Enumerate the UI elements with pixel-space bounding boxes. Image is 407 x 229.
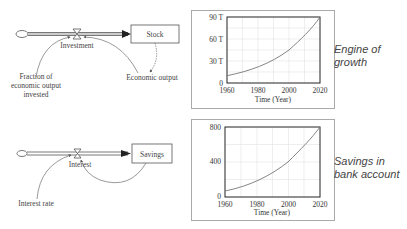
flow-label: Investment	[60, 41, 94, 50]
flow-label: Interest	[69, 160, 92, 169]
svg-text:400: 400	[210, 157, 222, 166]
chart-savings: 800 400 0 1960 1980 2000 2020 Time (Year…	[192, 120, 335, 221]
variable-label-line2: economic output	[11, 81, 62, 90]
cloud-icon	[17, 151, 27, 157]
chart-growth: 90 T 60 T 30 T 0 1960 1980 2000 2020 Tim…	[192, 11, 335, 109]
svg-text:1960: 1960	[220, 86, 235, 95]
caption-engine-of-growth: Engine of growth	[334, 43, 380, 69]
link-rate-to-flow	[37, 155, 71, 199]
stock-flow-diagram-growth: Investment Stock Economic output Fractio…	[11, 25, 179, 99]
variable-label-line1: Fraction of	[19, 72, 53, 81]
x-axis-label: Time (Year)	[254, 208, 291, 217]
figure-canvas: Investment Stock Economic output Fractio…	[0, 0, 407, 229]
variable-label-line3: invested	[24, 90, 49, 99]
x-axis-label: Time (Year)	[255, 95, 292, 104]
stock-box: Stock	[131, 25, 179, 43]
stock-box: Savings	[132, 144, 172, 163]
svg-text:30 T: 30 T	[209, 57, 223, 66]
svg-text:800: 800	[210, 123, 222, 132]
output-label: Economic output	[126, 73, 178, 82]
svg-text:90 T: 90 T	[209, 13, 223, 22]
variable-label: Interest rate	[18, 199, 54, 208]
stock-flow-diagram-savings: Interest Savings Interest rate	[17, 144, 172, 208]
stock-label: Savings	[140, 150, 164, 159]
svg-text:2020: 2020	[313, 86, 328, 95]
svg-text:2000: 2000	[282, 86, 297, 95]
link-stock-to-output	[150, 43, 157, 72]
svg-text:1980: 1980	[251, 86, 266, 95]
svg-text:2020: 2020	[313, 200, 328, 209]
caption-savings: Savings in bank account	[334, 155, 399, 181]
svg-text:60 T: 60 T	[209, 35, 223, 44]
valve-icon	[74, 149, 81, 158]
cloud-icon	[16, 31, 28, 38]
svg-text:1960: 1960	[218, 200, 233, 209]
stock-label: Stock	[146, 30, 163, 39]
